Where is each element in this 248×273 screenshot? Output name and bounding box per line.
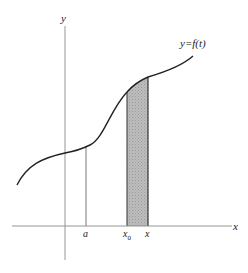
- curve-label: y=f(t): [179, 37, 206, 50]
- tick-label-x0-subscript: 0: [127, 234, 131, 242]
- y-axis-label: y: [60, 12, 66, 24]
- x-axis-label: x: [232, 220, 238, 232]
- tick-label-x0: x0: [122, 228, 131, 242]
- tick-label-x: x: [144, 228, 150, 239]
- function-curve: [17, 56, 193, 185]
- tick-label-a: a: [83, 228, 88, 239]
- integral-diagram: y x y=f(t) a x0 x: [0, 0, 248, 273]
- shaded-area: [127, 77, 148, 226]
